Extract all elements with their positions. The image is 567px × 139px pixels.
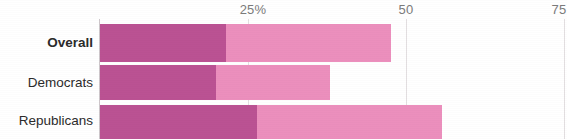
chart-row-republicans: Republicans (0, 105, 567, 139)
x-axis-tick-labels: 25% 50 75 (0, 0, 567, 22)
bar-segment-dark-overall (100, 24, 226, 62)
x-axis-tick-label-75: 75 (552, 2, 567, 17)
row-label-republicans: Republicans (19, 113, 93, 129)
bar-segment-light-democrats (216, 65, 330, 100)
bar-chart: 25% 50 75 Overall Democrats Republicans (0, 0, 567, 139)
bar-segment-light-overall (226, 24, 391, 62)
chart-row-democrats: Democrats (0, 65, 567, 100)
row-label-democrats: Democrats (28, 75, 93, 91)
x-axis-tick-label-25: 25% (240, 2, 267, 17)
chart-row-overall: Overall (0, 24, 567, 62)
row-label-overall: Overall (47, 35, 93, 51)
x-axis-tick-label-50: 50 (399, 2, 414, 17)
bar-segment-dark-republicans (100, 105, 257, 139)
bar-segment-dark-democrats (100, 65, 216, 100)
bar-segment-light-republicans (257, 105, 442, 139)
